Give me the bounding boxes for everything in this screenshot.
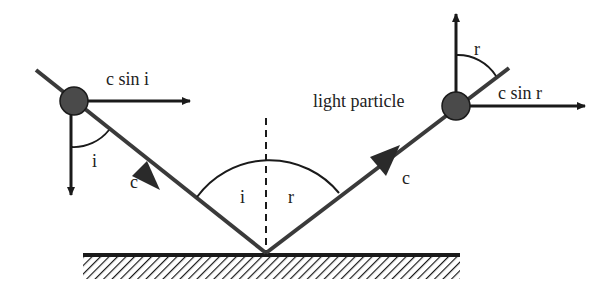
label-angle-r-particle: r [474, 39, 480, 59]
label-incident-c: c [130, 172, 138, 192]
label-angle-i-particle: i [92, 151, 97, 171]
label-reflected-c: c [402, 168, 410, 188]
label-c-sin-r: c sin r [498, 83, 542, 103]
incident-light-particle [60, 87, 88, 115]
label-light-particle: light particle [313, 91, 404, 111]
surface-hatching [83, 256, 460, 279]
label-c-sin-i: c sin i [106, 69, 149, 89]
particle-angle-i-arc [72, 130, 109, 147]
reflecting-surface [83, 255, 460, 279]
surface-angle-arc [197, 160, 339, 197]
diagram-canvas: c sin i i c i r c light particle c sin r… [0, 0, 613, 300]
label-angle-r-surface: r [288, 187, 294, 207]
reflection-diagram: c sin i i c i r c light particle c sin r… [0, 0, 613, 300]
label-angle-i-surface: i [240, 187, 245, 207]
reflected-light-particle [442, 92, 470, 120]
